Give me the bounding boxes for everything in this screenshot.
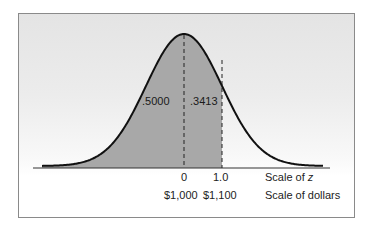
right-area-label: .3413 <box>190 95 218 107</box>
dollar-tick-1: $1,100 <box>203 189 237 201</box>
z-tick-1: 1.0 <box>213 171 228 183</box>
z-scale-text: Scale of <box>265 171 308 183</box>
dollar-tick-0: $1,000 <box>164 189 198 201</box>
z-tick-0: 0 <box>181 171 187 183</box>
z-scale-label: Scale of z <box>265 171 313 183</box>
left-area-label: .5000 <box>142 95 170 107</box>
z-variable: z <box>308 171 314 183</box>
dollar-scale-label: Scale of dollars <box>265 189 340 201</box>
